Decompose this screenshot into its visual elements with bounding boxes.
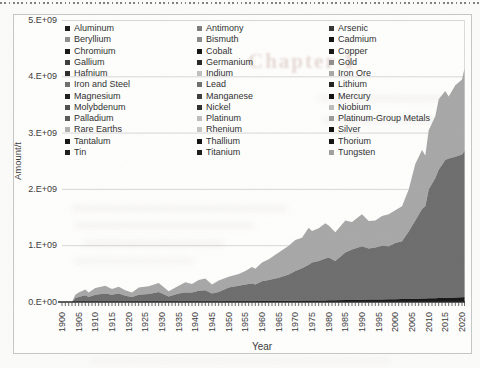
legend-item: Molybdenum bbox=[65, 102, 130, 113]
legend-marker-swatch bbox=[329, 127, 334, 132]
legend-label: Palladium bbox=[74, 114, 114, 123]
legend-marker-swatch bbox=[329, 94, 334, 99]
legend-item: Tin bbox=[65, 147, 130, 158]
x-tick-label: 2020 bbox=[457, 312, 467, 332]
legend-marker-swatch bbox=[65, 49, 70, 54]
legend-label: Niobium bbox=[338, 103, 371, 112]
legend-marker-swatch bbox=[329, 82, 334, 87]
legend-marker-swatch bbox=[65, 139, 70, 144]
x-tick-label: 1935 bbox=[174, 312, 184, 332]
legend-marker-swatch bbox=[329, 26, 334, 31]
legend-marker-swatch bbox=[329, 139, 334, 144]
legend-label: Tungsten bbox=[338, 148, 375, 157]
legend-label: Rhenium bbox=[206, 125, 242, 134]
legend-marker-swatch bbox=[197, 60, 202, 65]
page-top-dotted-rule bbox=[0, 2, 480, 4]
legend-item: Hafnium bbox=[65, 68, 130, 79]
legend-label: Cobalt bbox=[206, 47, 232, 56]
y-tick-label: 4.E+09 bbox=[14, 71, 57, 82]
legend-label: Rare Earths bbox=[74, 125, 122, 134]
x-tick-label: 1990 bbox=[357, 312, 367, 332]
legend-label: Thallium bbox=[206, 137, 240, 146]
x-tick-label: 1920 bbox=[124, 312, 134, 332]
y-tick-label: 5.E+09 bbox=[14, 15, 57, 26]
legend-marker-swatch bbox=[329, 116, 334, 121]
legend-item: Thorium bbox=[329, 136, 430, 147]
legend-marker-swatch bbox=[65, 71, 70, 76]
legend-item: Palladium bbox=[65, 113, 130, 124]
legend-label: Lead bbox=[206, 80, 226, 89]
legend-label: Titanium bbox=[206, 148, 240, 157]
legend-item: Aluminum bbox=[65, 23, 130, 34]
x-tick-label: 1970 bbox=[290, 312, 300, 332]
legend-marker-swatch bbox=[65, 127, 70, 132]
legend-item: Gold bbox=[329, 57, 430, 68]
x-tick-label: 1975 bbox=[307, 312, 317, 332]
legend-marker-swatch bbox=[65, 116, 70, 121]
legend-item: Iron and Steel bbox=[65, 79, 130, 90]
legend-label: Gallium bbox=[74, 58, 105, 67]
legend-item: Rare Earths bbox=[65, 124, 130, 135]
legend-item: Chromium bbox=[65, 46, 130, 57]
legend-label: Cadmium bbox=[338, 35, 377, 44]
bleed-smudge bbox=[72, 206, 287, 211]
legend-marker-swatch bbox=[197, 127, 202, 132]
legend-label: Germanium bbox=[206, 58, 253, 67]
x-tick-label: 1980 bbox=[324, 312, 334, 332]
x-tick-label: 1945 bbox=[207, 312, 217, 332]
legend-item: Magnesium bbox=[65, 91, 130, 102]
legend-marker-swatch bbox=[65, 150, 70, 155]
legend-item: Rhenium bbox=[197, 124, 253, 135]
legend-item: Titanium bbox=[197, 147, 253, 158]
legend-marker-swatch bbox=[197, 37, 202, 42]
legend-label: Nickel bbox=[206, 103, 231, 112]
legend-marker-swatch bbox=[329, 49, 334, 54]
legend-label: Manganese bbox=[206, 92, 253, 101]
legend-marker-swatch bbox=[65, 105, 70, 110]
x-tick-label: 1910 bbox=[90, 312, 100, 332]
x-tick-label: 2010 bbox=[424, 312, 434, 332]
legend-item: Silver bbox=[329, 124, 430, 135]
legend-label: Antimony bbox=[206, 24, 244, 33]
legend-item: Manganese bbox=[197, 91, 253, 102]
x-tick-label: 1940 bbox=[190, 312, 200, 332]
legend-item: Tungsten bbox=[329, 147, 430, 158]
x-axis-title: Year bbox=[252, 341, 272, 352]
legend-label: Aluminum bbox=[74, 24, 114, 33]
legend-label: Hafnium bbox=[74, 69, 108, 78]
x-tick-label: 1985 bbox=[340, 312, 350, 332]
y-tick-label: 1.E+09 bbox=[14, 240, 57, 251]
legend-label: Platinum bbox=[206, 114, 241, 123]
legend-column: ArsenicCadmiumCopperGoldIron OreLithiumM… bbox=[329, 23, 430, 158]
x-tick-label: 1900 bbox=[57, 312, 67, 332]
legend-item: Lithium bbox=[329, 79, 430, 90]
legend-item: Lead bbox=[197, 79, 253, 90]
bleed-smudge bbox=[84, 241, 224, 246]
legend-marker-swatch bbox=[65, 82, 70, 87]
legend-label: Thorium bbox=[338, 137, 371, 146]
x-tick-label: 1955 bbox=[240, 312, 250, 332]
legend-marker-swatch bbox=[197, 105, 202, 110]
legend-label: Iron Ore bbox=[338, 69, 371, 78]
legend-marker-swatch bbox=[197, 71, 202, 76]
legend-label: Molybdenum bbox=[74, 103, 126, 112]
legend-item: Thallium bbox=[197, 136, 253, 147]
legend-label: Tin bbox=[74, 148, 86, 157]
legend-marker-swatch bbox=[65, 94, 70, 99]
legend-item: Niobium bbox=[329, 102, 430, 113]
y-tick-label: 2.E+09 bbox=[14, 184, 57, 195]
x-tick-label: 1925 bbox=[140, 312, 150, 332]
x-tick-label: 1930 bbox=[157, 312, 167, 332]
legend-item: Antimony bbox=[197, 23, 253, 34]
legend-item: Beryllium bbox=[65, 34, 130, 45]
legend-marker-swatch bbox=[197, 139, 202, 144]
legend-label: Copper bbox=[338, 47, 368, 56]
legend-marker-swatch bbox=[65, 26, 70, 31]
legend-label: Lithium bbox=[338, 80, 367, 89]
legend-marker-swatch bbox=[65, 60, 70, 65]
legend-label: Silver bbox=[338, 125, 361, 134]
legend-marker-swatch bbox=[329, 37, 334, 42]
legend-marker-swatch bbox=[197, 49, 202, 54]
legend-marker-swatch bbox=[329, 105, 334, 110]
x-tick-label: 2015 bbox=[440, 312, 450, 332]
